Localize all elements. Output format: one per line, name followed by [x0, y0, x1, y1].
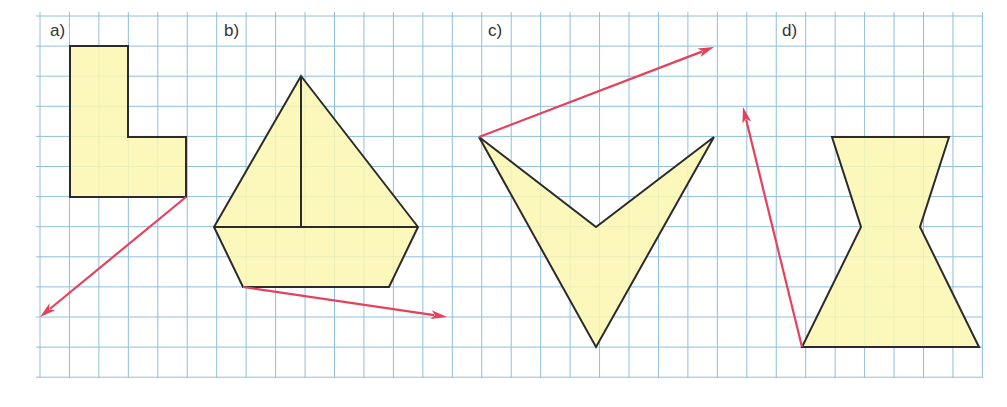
figure-label-b: b) — [224, 21, 239, 41]
figure-d-vector-line — [746, 120, 802, 347]
grid-diagram — [0, 0, 1007, 407]
figure-label-d: d) — [782, 21, 797, 41]
figure-c-vector-line — [479, 52, 702, 137]
figure-c-shape — [479, 137, 714, 347]
figure-b-shape — [214, 76, 418, 287]
figure-a-vector-line — [50, 197, 186, 309]
figure-b-vector-line — [243, 287, 434, 315]
figure-label-c: c) — [488, 21, 502, 41]
figure-label-a: a) — [50, 21, 65, 41]
figure-a-shape — [70, 46, 186, 197]
